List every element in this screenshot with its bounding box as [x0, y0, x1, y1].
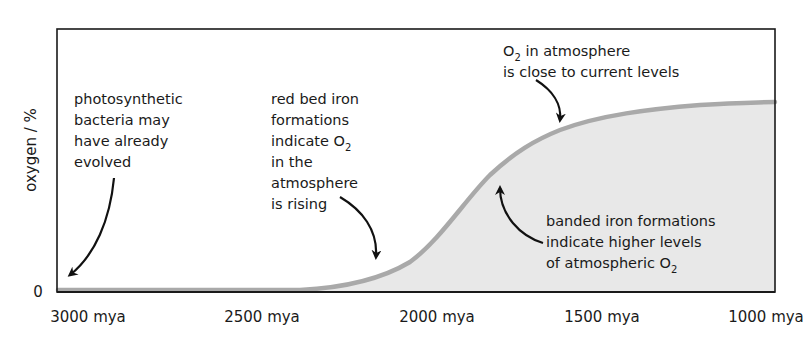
svg-text:bacteria may: bacteria may — [74, 112, 170, 128]
svg-text:in the: in the — [271, 154, 313, 170]
annotation-red-bed: red bed iron formations indicate O2 in t… — [271, 91, 376, 257]
x-tick-1500: 1500 mya — [564, 308, 640, 326]
x-tick-1000: 1000 mya — [728, 308, 804, 326]
svg-text:O2 in atmosphere: O2 in atmosphere — [503, 43, 630, 63]
arrow-red-bed — [340, 197, 376, 257]
x-tick-2500: 2500 mya — [224, 308, 300, 326]
svg-text:is rising: is rising — [271, 196, 327, 212]
svg-text:indicate O2: indicate O2 — [271, 133, 351, 153]
x-tick-3000: 3000 mya — [50, 308, 126, 326]
svg-text:formations: formations — [271, 112, 349, 128]
svg-text:evolved: evolved — [74, 154, 131, 170]
y-zero-label: 0 — [33, 283, 43, 301]
svg-text:atmosphere: atmosphere — [271, 175, 358, 191]
svg-text:photosynthetic: photosynthetic — [74, 91, 183, 107]
svg-text:indicate higher levels: indicate higher levels — [546, 234, 702, 250]
annotation-photosynthetic: photosynthetic bacteria may have already… — [70, 91, 183, 275]
x-tick-2000: 2000 mya — [399, 308, 475, 326]
svg-text:red bed iron: red bed iron — [271, 91, 359, 107]
svg-text:is close to current levels: is close to current levels — [503, 64, 679, 80]
oxygen-chart: oxygen / % 0 3000 mya 2500 mya 2000 mya … — [0, 0, 809, 343]
arrow-current-levels — [536, 80, 560, 120]
arrow-photosynthetic — [70, 178, 114, 275]
svg-text:have already: have already — [74, 133, 169, 149]
svg-text:banded iron formations: banded iron formations — [546, 213, 716, 229]
y-axis-label: oxygen / % — [22, 108, 40, 192]
